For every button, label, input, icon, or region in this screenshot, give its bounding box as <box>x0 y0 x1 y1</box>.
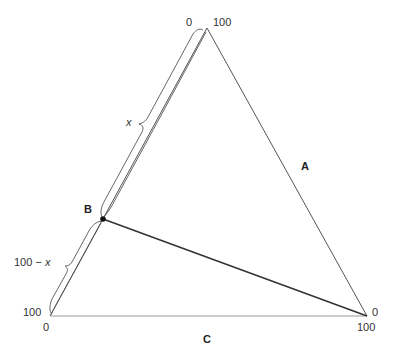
tick-left-bottom: 100 <box>23 307 41 318</box>
bracket-label-prefix: 100 − <box>14 256 45 268</box>
label-C: C <box>203 334 211 345</box>
tick-top-right: 100 <box>213 17 231 28</box>
bracket-label-100-minus-x: 100 − x <box>14 257 50 268</box>
ternary-diagram-canvas <box>0 0 394 360</box>
lower-bracket <box>50 221 101 313</box>
upper-bracket <box>101 29 203 217</box>
bracket-label-x: x <box>126 117 132 128</box>
label-A: A <box>301 161 309 172</box>
tick-top-left: 0 <box>186 17 192 28</box>
tick-right-top: 0 <box>372 307 378 318</box>
tick-right-bottom: 100 <box>357 322 375 333</box>
right-side-A <box>207 28 367 316</box>
tick-bottom-left: 0 <box>43 322 49 333</box>
lower-bracket-inner <box>51 223 101 315</box>
point-b-marker <box>100 216 106 222</box>
bracket-label-var: x <box>45 256 51 268</box>
label-B: B <box>84 204 92 215</box>
tie-line <box>103 219 367 316</box>
